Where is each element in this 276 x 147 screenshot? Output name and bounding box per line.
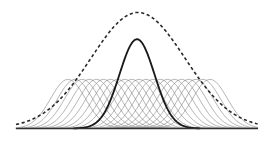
- figure-container: [0, 0, 276, 147]
- gaussian-basis-chart: [0, 0, 276, 147]
